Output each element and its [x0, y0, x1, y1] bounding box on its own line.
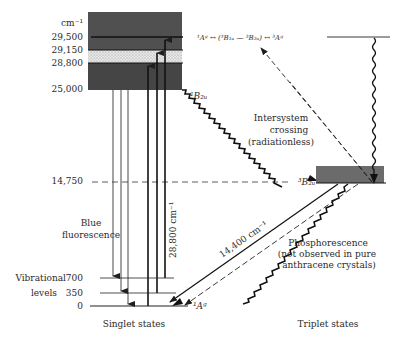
absorption-energy-label: 28,800 cm⁻¹ — [168, 202, 178, 258]
isc-label-2: crossing — [270, 125, 309, 135]
phosphorescence-energy-label: 14,400 cm⁻¹ — [217, 219, 269, 259]
vib-700: 700 — [66, 273, 83, 283]
phos-label-3: anthracene crystals) — [282, 260, 376, 270]
isc-label-1: Intersystem — [254, 113, 309, 123]
triplet-states-label: Triplet states — [298, 319, 359, 329]
jablonski-diagram: cm⁻¹ 29,500 29,150 28,800 25,000 14,750 … — [0, 0, 396, 343]
vibrational-levels — [90, 278, 188, 306]
phos-label-2: (not observed in pure — [278, 249, 376, 259]
triplet-relaxation-wave — [373, 38, 376, 176]
tick-29500: 29,500 — [52, 32, 84, 42]
phos-label-1: Phosphorescence — [288, 238, 368, 248]
tick-14750: 14,750 — [52, 176, 84, 186]
vib-350: 350 — [66, 288, 83, 298]
triplet-state-label: ³B₂ᵤ — [298, 177, 316, 187]
tick-29150: 29,150 — [52, 45, 84, 55]
unit-label: cm⁻¹ — [61, 18, 83, 28]
vibrational-label-1: Vibrational — [14, 273, 66, 283]
singlet-states-label: Singlet states — [103, 319, 166, 329]
tick-28800: 28,800 — [52, 58, 84, 68]
isc-label-3: (radiationless) — [248, 137, 314, 147]
upper-state-chain: ¹Aᵍ ↔ (³B₁ᵤ — ³B₂ᵤ) ↔ ³Aᵍ — [197, 34, 284, 42]
fluorescence-label-2: fluorescence — [62, 230, 120, 240]
vib-0: 0 — [77, 301, 83, 311]
singlet-band — [88, 12, 183, 90]
singlet-state-label: ¹B₂ᵤ — [190, 91, 208, 101]
fluorescence-label-1: Blue — [81, 218, 102, 228]
vibrational-label-2: levels — [31, 288, 57, 298]
fluorescence-arrows — [113, 90, 128, 304]
tick-25000: 25,000 — [52, 84, 84, 94]
ground-state-label: ¹Aᵍ — [193, 301, 207, 311]
